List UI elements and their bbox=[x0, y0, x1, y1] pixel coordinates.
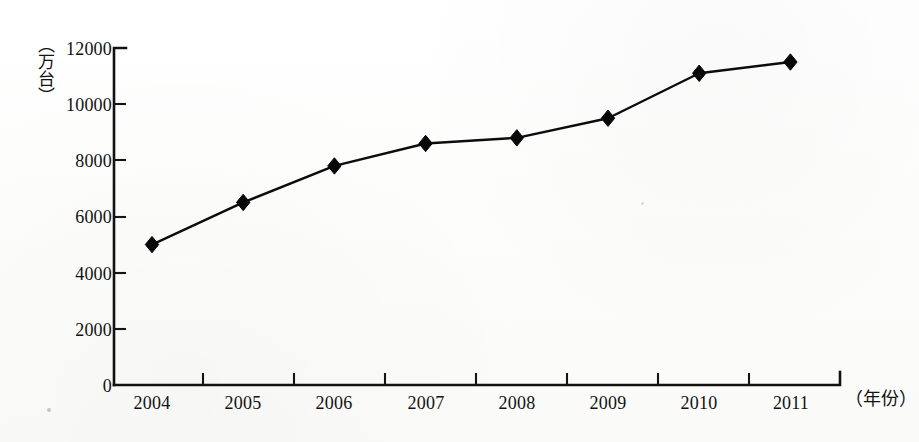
chart-figure: （万台） 12000 10000 8000 6000 4000 2000 0 2… bbox=[0, 0, 919, 442]
data-point-marker bbox=[601, 110, 614, 126]
scan-speck bbox=[47, 408, 51, 412]
data-point-marker bbox=[328, 158, 341, 174]
data-point-marker bbox=[145, 236, 158, 252]
data-point-marker bbox=[692, 65, 705, 81]
data-point-marker bbox=[419, 135, 432, 151]
data-point-marker bbox=[784, 54, 797, 70]
scan-speck bbox=[641, 202, 644, 205]
y-tick-marks bbox=[114, 104, 126, 329]
data-point-marker bbox=[510, 130, 523, 146]
x-tick-marks bbox=[203, 373, 749, 385]
data-point-markers bbox=[145, 54, 797, 253]
data-point-marker bbox=[236, 194, 249, 210]
plot-area bbox=[0, 0, 919, 442]
data-series-line bbox=[152, 62, 790, 245]
